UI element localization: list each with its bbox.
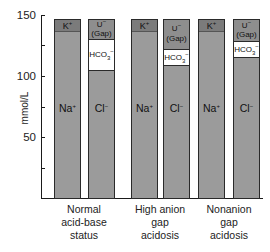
segment-gap-normal: U− (Gap) [89, 20, 114, 40]
hco3-label: HCO3− [234, 45, 259, 54]
x-category-normal: Normal acid-base status [46, 203, 122, 242]
x-category-line: acid-base [46, 216, 122, 229]
u-label: U− [89, 20, 114, 29]
na-label: Na+ [55, 102, 80, 114]
tick-125 [41, 45, 45, 46]
bar-anions-high-anion-gap: U− (Gap) HCO3− Cl− [163, 19, 190, 199]
x-category-high-anion-gap: High anion gap acidosis [122, 203, 198, 242]
segment-k-high-anion-gap: K+ [132, 20, 157, 32]
cl-label: Cl− [164, 102, 189, 114]
k-label: K+ [199, 20, 224, 32]
x-category-line: status [46, 229, 122, 242]
tick-label-150: 150 [6, 9, 36, 21]
bar-anions-normal: U− (Gap) HCO3− Cl− [88, 19, 115, 199]
k-label: K+ [55, 20, 80, 32]
u-label: U− [234, 21, 259, 30]
cl-label: Cl− [89, 102, 114, 114]
segment-hco3-normal: HCO3− [89, 40, 114, 71]
tick-150 [41, 15, 45, 16]
segment-hco3-high-anion-gap: HCO3− [164, 50, 189, 66]
x-category-nonanion-gap: Nonanion gap acidosis [191, 203, 267, 242]
u-label: U− [164, 24, 189, 33]
cl-label: Cl− [234, 102, 259, 114]
bar-anions-nonanion-gap: U− (Gap) HCO3− Cl− [233, 19, 260, 199]
k-label: K+ [132, 20, 157, 32]
x-category-line: gap [122, 216, 198, 229]
bar-cations-high-anion-gap: K+ Na+ [131, 19, 158, 199]
hco3-label: HCO3− [89, 50, 114, 59]
gap-label: (Gap) [234, 30, 259, 39]
tick-100 [41, 76, 45, 77]
segment-hco3-nonanion-gap: HCO3− [234, 42, 259, 58]
x-category-line: Nonanion [191, 203, 267, 216]
tick-50 [41, 137, 45, 138]
x-category-line: acidosis [122, 229, 198, 242]
tick-75 [41, 107, 45, 108]
x-category-line: gap [191, 216, 267, 229]
x-category-line: Normal [46, 203, 122, 216]
gap-label: (Gap) [89, 29, 114, 38]
gap-label: (Gap) [164, 34, 189, 43]
segment-k-nonanion-gap: K+ [199, 20, 224, 32]
y-axis-label: mmol/L [18, 83, 32, 133]
x-category-line: acidosis [191, 229, 267, 242]
x-category-line: High anion [122, 203, 198, 216]
tick-25 [41, 168, 45, 169]
bar-cations-nonanion-gap: K+ Na+ [198, 19, 225, 199]
na-label: Na+ [132, 102, 157, 114]
na-label: Na+ [199, 102, 224, 114]
segment-gap-high-anion-gap: U− (Gap) [164, 20, 189, 50]
segment-k-normal: K+ [55, 20, 80, 32]
hco3-label: HCO3− [164, 53, 189, 62]
tick-label-100: 100 [6, 70, 36, 82]
bar-cations-normal: K+ Na+ [54, 19, 81, 199]
segment-gap-nonanion-gap: U− (Gap) [234, 20, 259, 42]
